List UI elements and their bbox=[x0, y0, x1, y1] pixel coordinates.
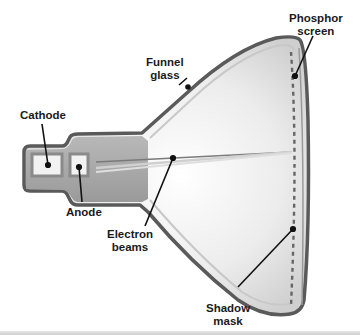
footer-divider bbox=[0, 331, 360, 335]
label-cathode-text: Cathode bbox=[20, 109, 66, 122]
label-cathode: Cathode bbox=[20, 109, 66, 122]
label-funnel-glass-line1: Funnel bbox=[146, 56, 184, 69]
label-phosphor-screen: Phosphor screen bbox=[289, 12, 343, 38]
label-anode-text: Anode bbox=[66, 206, 102, 219]
label-electron-beams-line2: beams bbox=[107, 241, 153, 254]
label-funnel-glass-line2: glass bbox=[146, 69, 184, 82]
label-shadow-mask: Shadow mask bbox=[206, 302, 250, 328]
label-electron-beams-line1: Electron bbox=[107, 228, 153, 241]
label-shadow-mask-line1: Shadow bbox=[206, 302, 250, 315]
label-electron-beams: Electron beams bbox=[107, 228, 153, 254]
label-shadow-mask-line2: mask bbox=[206, 315, 250, 328]
crt-diagram bbox=[0, 0, 360, 335]
label-phosphor-screen-line2: screen bbox=[289, 25, 343, 38]
label-phosphor-screen-line1: Phosphor bbox=[289, 12, 343, 25]
label-funnel-glass: Funnel glass bbox=[146, 56, 184, 82]
label-anode: Anode bbox=[66, 206, 102, 219]
